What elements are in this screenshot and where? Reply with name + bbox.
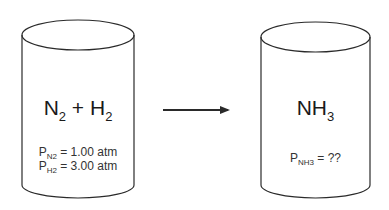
pressure-h2: PH2 = 3.00 atm [22,159,134,173]
pressure-nh3: PNH3 = ?? [261,151,370,165]
pressure-value: = ?? [314,151,341,165]
formula-nh-subscript: 3 [327,109,334,124]
formula-plus: + [66,96,90,119]
formula-h-subscript: 2 [105,109,112,124]
formula-h: H [90,96,105,119]
pressure-symbol: P [290,151,298,165]
pressure-subscript: NH3 [298,158,314,167]
formula-nh: NH [297,96,327,119]
pressure-symbol: P [39,159,47,173]
pressure-value: = 3.00 atm [57,159,117,173]
formula-n: N [44,96,59,119]
pressure-n2: PN2 = 1.00 atm [22,145,134,159]
pressure-symbol: P [39,145,47,159]
formula-n-subscript: 2 [59,109,66,124]
pressure-subscript: H2 [47,166,57,175]
product-pressures: PNH3 = ?? [261,151,370,165]
reactants-formula: N2 + H2 [22,96,134,120]
reactant-pressures: PN2 = 1.00 atm PH2 = 3.00 atm [22,145,134,173]
product-formula: NH3 [261,96,370,120]
pressure-value: = 1.00 atm [57,145,117,159]
